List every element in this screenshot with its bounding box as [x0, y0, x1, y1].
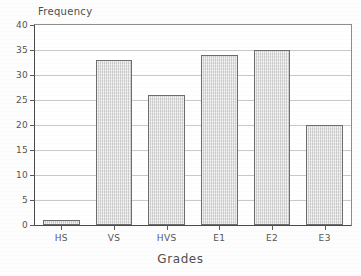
bar-chart-figure: Frequency 0510152025303540 HSVSHVSE1E2E3… [0, 0, 361, 276]
plot-area: 0510152025303540 HSVSHVSE1E2E3 [34, 24, 352, 226]
x-tick-label-vs: VS [108, 233, 121, 243]
x-tick-label-hs: HS [55, 233, 68, 243]
gridline [35, 75, 351, 76]
y-tick-mark [30, 100, 35, 101]
x-tick-mark [272, 225, 273, 230]
bar-vs [96, 60, 133, 225]
y-tick-label: 30 [16, 70, 28, 80]
gridline [35, 150, 351, 151]
bar-e3 [306, 125, 343, 225]
bar-e1 [201, 55, 238, 225]
y-tick-label: 10 [16, 170, 28, 180]
x-tick-mark [167, 225, 168, 230]
bar-hvs [148, 95, 185, 225]
y-axis-title: Frequency [38, 6, 92, 17]
x-axis-title: Grades [0, 252, 361, 266]
x-tick-label-e2: E2 [266, 233, 278, 243]
x-tick-mark [61, 225, 62, 230]
x-tick-label-e1: E1 [213, 233, 225, 243]
y-tick-label: 0 [22, 220, 28, 230]
y-tick-label: 15 [16, 145, 28, 155]
y-tick-label: 20 [16, 120, 28, 130]
y-tick-mark [30, 225, 35, 226]
gridline [35, 100, 351, 101]
bar-e2 [254, 50, 291, 225]
y-tick-mark [30, 25, 35, 26]
y-tick-mark [30, 75, 35, 76]
gridline [35, 200, 351, 201]
x-tick-mark [325, 225, 326, 230]
gridline [35, 175, 351, 176]
gridline [35, 125, 351, 126]
x-tick-mark [219, 225, 220, 230]
gridline [35, 50, 351, 51]
y-tick-mark [30, 50, 35, 51]
x-tick-label-e3: E3 [319, 233, 331, 243]
y-tick-label: 5 [22, 195, 28, 205]
y-tick-mark [30, 175, 35, 176]
y-tick-label: 40 [16, 20, 28, 30]
y-tick-mark [30, 150, 35, 151]
x-tick-label-hvs: HVS [157, 233, 177, 243]
x-tick-mark [114, 225, 115, 230]
y-tick-mark [30, 200, 35, 201]
y-tick-label: 25 [16, 95, 28, 105]
y-tick-mark [30, 125, 35, 126]
y-tick-label: 35 [16, 45, 28, 55]
